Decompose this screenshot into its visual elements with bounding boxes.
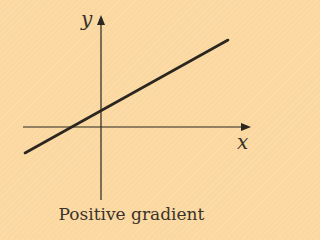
y-axis-arrow-icon bbox=[97, 15, 105, 25]
x-axis-label: x bbox=[237, 132, 248, 152]
positive-gradient-line bbox=[25, 40, 228, 153]
y-axis bbox=[97, 15, 105, 200]
diagram-caption: Positive gradient bbox=[0, 204, 263, 224]
x-axis bbox=[23, 123, 251, 131]
y-axis-label: y bbox=[81, 9, 92, 29]
